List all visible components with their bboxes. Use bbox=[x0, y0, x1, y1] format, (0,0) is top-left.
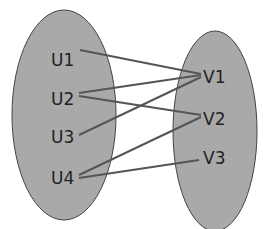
node-v2: V2 bbox=[203, 109, 225, 129]
node-u4: U4 bbox=[51, 168, 74, 188]
left-set-ellipse bbox=[12, 10, 116, 220]
node-u2: U2 bbox=[51, 89, 74, 109]
node-u3: U3 bbox=[51, 127, 74, 147]
bipartite-graph: U1 U2 U3 U4 V1 V2 V3 bbox=[0, 0, 263, 229]
node-v3: V3 bbox=[203, 148, 225, 168]
right-set-ellipse bbox=[173, 31, 257, 229]
node-v1: V1 bbox=[203, 67, 225, 87]
node-u1: U1 bbox=[51, 50, 74, 70]
